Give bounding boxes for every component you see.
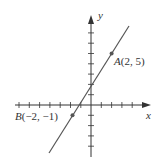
graph-svg [0, 0, 161, 161]
point-A-label: A(2, 5) [114, 55, 145, 67]
point-B-coords: (−2, −1) [22, 110, 58, 122]
x-axis-arrow-icon [142, 102, 151, 108]
y-axis-arrow-icon [88, 15, 94, 24]
x-axis-label: x [146, 109, 151, 121]
point-A [110, 52, 114, 56]
point-A-name: A [114, 55, 121, 67]
point-B [71, 113, 75, 117]
point-A-coords: (2, 5) [121, 55, 145, 67]
point-B-name: B [15, 110, 22, 122]
line-AB [49, 26, 129, 153]
y-axis-label: y [98, 9, 103, 21]
point-B-label: B(−2, −1) [15, 110, 58, 122]
coordinate-plane: y x A(2, 5) B(−2, −1) [0, 0, 161, 161]
